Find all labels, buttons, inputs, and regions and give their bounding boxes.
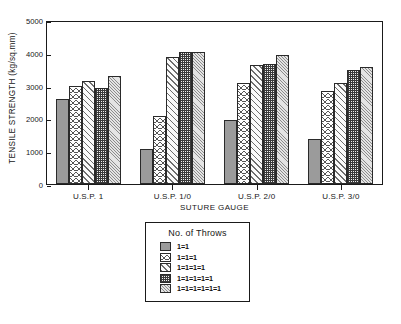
bar: [360, 67, 373, 184]
legend-item: 1=1=1=1=1=1: [160, 284, 243, 293]
x-tick-mark: [341, 185, 342, 190]
bar: [108, 76, 121, 184]
legend-swatch: [160, 242, 171, 251]
bar-group: [47, 22, 131, 184]
y-axis-title: TENSILE STRENGTH (kg/sq.mm): [8, 18, 17, 178]
legend-swatch: [160, 253, 171, 262]
bar-group: [298, 22, 382, 184]
bar: [334, 83, 347, 184]
legend-item-label: 1=1=1: [177, 253, 197, 262]
bar: [276, 55, 289, 184]
bar: [153, 116, 166, 184]
legend-items: 1=11=1=11=1=1=11=1=1=1=11=1=1=1=1=1: [152, 242, 243, 293]
legend-item-label: 1=1=1=1: [177, 263, 205, 272]
plot-area: 010002000300040005000: [46, 21, 383, 185]
legend-swatch: [160, 263, 171, 272]
y-tick-label: 1000: [21, 148, 47, 158]
y-tick-label: 4000: [21, 50, 47, 60]
x-axis-title: SUTURE GAUGE: [46, 203, 383, 212]
legend-item: 1=1=1: [160, 253, 243, 262]
y-tick-label: 2000: [21, 115, 47, 125]
y-tick-label: 0: [21, 181, 47, 191]
bar: [179, 52, 192, 185]
bar: [250, 65, 263, 184]
bar: [95, 88, 108, 184]
bar: [82, 81, 95, 184]
x-tick-mark: [88, 185, 89, 190]
legend-item-label: 1=1: [177, 242, 189, 251]
legend: No. of Throws 1=11=1=11=1=1=11=1=1=1=11=…: [145, 222, 250, 302]
x-tick-mark: [172, 185, 173, 190]
bar: [347, 70, 360, 184]
legend-item: 1=1: [160, 242, 243, 251]
legend-item-label: 1=1=1=1=1: [177, 274, 213, 283]
bar: [56, 99, 69, 184]
legend-item-label: 1=1=1=1=1=1: [177, 284, 221, 293]
bar: [166, 57, 179, 184]
bar-group: [215, 22, 299, 184]
bar-group: [131, 22, 215, 184]
legend-swatch: [160, 284, 171, 293]
x-tick-label: U.S.P. 2/0: [215, 192, 299, 201]
bar-groups: [47, 22, 382, 184]
bar: [308, 139, 321, 184]
legend-title: No. of Throws: [152, 228, 243, 238]
x-tick-mark: [257, 185, 258, 190]
bar: [192, 52, 205, 184]
bar: [237, 83, 250, 184]
chart-figure: TENSILE STRENGTH (kg/sq.mm) 010002000300…: [0, 0, 401, 324]
x-tick-label: U.S.P. 3/0: [299, 192, 383, 201]
y-tick-label: 3000: [21, 83, 47, 93]
bar: [69, 86, 82, 184]
bar: [224, 120, 237, 184]
legend-swatch: [160, 274, 171, 283]
y-tick-label: 5000: [21, 17, 47, 27]
bar: [263, 64, 276, 184]
legend-item: 1=1=1=1=1: [160, 274, 243, 283]
x-tick-label: U.S.P. 1/0: [130, 192, 214, 201]
bar: [140, 149, 153, 184]
bar: [321, 91, 334, 184]
legend-item: 1=1=1=1: [160, 263, 243, 272]
x-tick-label: U.S.P. 1: [46, 192, 130, 201]
